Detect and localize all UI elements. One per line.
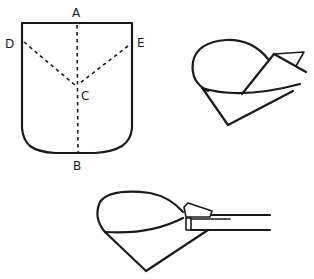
flat-pattern-figure: A B C D E — [5, 6, 145, 173]
fold-line-a-b — [77, 25, 78, 152]
cone-top-loop — [193, 40, 268, 91]
handle-cone-rim — [105, 218, 183, 232]
label-e: E — [137, 36, 145, 50]
label-c: C — [81, 89, 89, 103]
cone-body — [203, 89, 293, 125]
label-a: A — [72, 6, 81, 20]
cone-flap-tip — [274, 52, 304, 66]
folded-cone-figure — [193, 40, 306, 125]
cone-with-handle-figure — [97, 192, 270, 271]
fold-line-d-c — [24, 42, 76, 86]
label-b: B — [73, 159, 81, 173]
label-d: D — [5, 37, 14, 51]
handle-cone-body — [105, 230, 208, 271]
clip-post — [186, 218, 191, 230]
fold-line-e-c — [80, 46, 128, 83]
handle-cone-top-loop — [97, 192, 183, 232]
cone-flap — [242, 54, 306, 94]
cone-rim — [202, 84, 300, 93]
clip-wedge — [184, 203, 212, 217]
diagram-canvas: A B C D E — [0, 0, 314, 279]
